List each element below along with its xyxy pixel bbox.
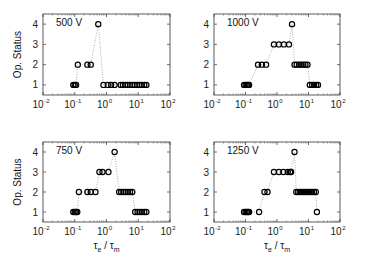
x-tick-label: 102 bbox=[331, 98, 347, 110]
y-tick-label: 4 bbox=[32, 19, 38, 30]
panel-voltage-label: 750 V bbox=[56, 145, 82, 156]
y-tick-label: 3 bbox=[32, 39, 38, 50]
y-tick-label: 2 bbox=[32, 187, 38, 198]
x-tick-label: 10-2 bbox=[33, 98, 51, 110]
panel-voltage-label: 1250 V bbox=[227, 145, 259, 156]
subplot-1000-v: 123410-210-11001011021000 V bbox=[203, 14, 346, 110]
y-tick-label: 3 bbox=[32, 167, 38, 178]
panel-voltage-label: 1000 V bbox=[227, 17, 259, 28]
dotted-trace-line bbox=[244, 24, 318, 85]
x-tick-label: 10-2 bbox=[204, 98, 222, 110]
y-tick-label: 3 bbox=[203, 39, 209, 50]
dotted-trace-line bbox=[73, 152, 146, 212]
y-tick-label: 1 bbox=[32, 79, 38, 90]
x-tick-label: 100 bbox=[268, 98, 284, 110]
x-axis-label: τe / τm bbox=[94, 240, 120, 253]
x-axis-label: τe / τm bbox=[264, 240, 290, 253]
panel-voltage-label: 500 V bbox=[56, 17, 82, 28]
y-axis-label: Op. Status bbox=[12, 31, 23, 78]
x-tick-label: 10-1 bbox=[235, 98, 253, 110]
y-tick-label: 4 bbox=[203, 147, 209, 158]
y-tick-label: 2 bbox=[203, 187, 209, 198]
x-tick-label: 101 bbox=[129, 98, 145, 110]
x-tick-label: 10-1 bbox=[64, 225, 82, 237]
x-tick-label: 100 bbox=[97, 98, 113, 110]
x-tick-label: 101 bbox=[299, 225, 315, 237]
dotted-trace-line bbox=[244, 152, 317, 212]
subplot-500-v: 123410-210-1100101102500 VOp. Status bbox=[12, 14, 176, 110]
y-tick-label: 4 bbox=[32, 147, 38, 158]
subplot-1250-v: 123410-210-11001011021250 Vτe / τm bbox=[203, 142, 346, 253]
x-tick-label: 10-1 bbox=[235, 225, 253, 237]
y-tick-label: 2 bbox=[203, 59, 209, 70]
data-point-marker bbox=[314, 209, 319, 214]
y-tick-label: 2 bbox=[32, 59, 38, 70]
y-tick-label: 3 bbox=[203, 167, 209, 178]
x-tick-label: 101 bbox=[299, 98, 315, 110]
y-tick-label: 1 bbox=[32, 207, 38, 218]
y-tick-label: 1 bbox=[203, 79, 209, 90]
x-tick-label: 102 bbox=[161, 98, 177, 110]
y-tick-label: 4 bbox=[203, 19, 209, 30]
x-tick-label: 100 bbox=[97, 225, 113, 237]
y-axis-label: Op. Status bbox=[12, 158, 23, 205]
subplot-750-v: 123410-210-1100101102750 VOp. Statusτe /… bbox=[12, 142, 176, 253]
y-tick-label: 1 bbox=[203, 207, 209, 218]
x-tick-label: 101 bbox=[129, 225, 145, 237]
x-tick-label: 10-2 bbox=[204, 225, 222, 237]
x-tick-label: 102 bbox=[161, 225, 177, 237]
dotted-trace-line bbox=[73, 24, 146, 85]
x-tick-label: 10-1 bbox=[64, 98, 82, 110]
x-tick-label: 102 bbox=[331, 225, 347, 237]
figure-canvas: 123410-210-1100101102500 VOp. Status1234… bbox=[0, 0, 365, 266]
x-tick-label: 100 bbox=[268, 225, 284, 237]
x-tick-label: 10-2 bbox=[33, 225, 51, 237]
